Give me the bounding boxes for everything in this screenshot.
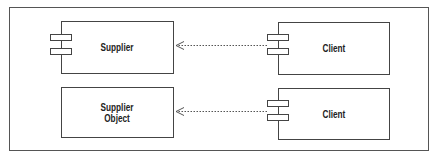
dependency-edge-1 — [176, 42, 267, 50]
dependency-arrows — [0, 0, 438, 160]
dependency-edge-2 — [176, 108, 267, 116]
